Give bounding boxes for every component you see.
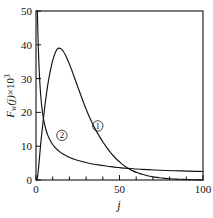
data-curves (37, 11, 203, 180)
y-axis-argument: (j) (4, 95, 17, 106)
curve-2-tag: 2 (60, 130, 65, 140)
y-tick-label: 0 (27, 174, 33, 186)
y-tick-label: 20 (21, 106, 33, 118)
chart-container: 050100 01020304050 12 j Fw(j)×103 (0, 0, 213, 218)
curve-1-tag: 1 (96, 121, 101, 131)
y-axis-tick-labels: 01020304050 (21, 5, 33, 186)
y-axis-factor-exponent: 3 (3, 74, 12, 78)
y-axis-title: Fw(j)×103 (3, 74, 18, 119)
y-tick-label: 10 (21, 140, 33, 152)
y-tick-label: 50 (21, 5, 33, 17)
curve-annotations: 12 (57, 121, 103, 141)
x-tick-label: 0 (33, 183, 39, 195)
line-chart: 050100 01020304050 12 j Fw(j)×103 (0, 0, 213, 218)
x-axis-tick-labels: 050100 (33, 183, 212, 195)
x-tick-label: 100 (195, 183, 212, 195)
y-tick-label: 40 (21, 39, 33, 51)
y-tick-label: 30 (21, 73, 33, 85)
svg-text:Fw(j)×103: Fw(j)×103 (3, 74, 18, 119)
plot-frame (36, 11, 203, 180)
x-axis-title: j (115, 198, 121, 212)
curve-1 (37, 48, 203, 180)
x-tick-label: 50 (114, 183, 126, 195)
curve-2 (37, 11, 203, 171)
y-axis-factor-base: 10 (4, 77, 16, 89)
